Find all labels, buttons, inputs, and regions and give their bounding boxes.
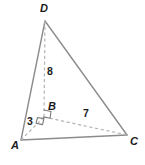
edge-B-C <box>44 117 127 135</box>
tetrahedron-svg <box>0 0 145 165</box>
measure-label-ab: 3 <box>27 116 33 127</box>
vertex-label-D: D <box>40 3 48 14</box>
vertex-label-A: A <box>11 140 19 151</box>
geometry-figure: D B A C 8 3 7 <box>0 0 145 165</box>
measure-label-bc: 7 <box>83 108 89 119</box>
right-angle-mark-at-B-lower <box>36 118 44 125</box>
edge-A-C <box>21 135 127 140</box>
vertex-label-B: B <box>48 101 56 112</box>
edge-A-D <box>21 21 45 140</box>
vertex-label-C: C <box>130 136 138 147</box>
measure-label-db: 8 <box>47 66 53 77</box>
edge-D-B <box>44 21 45 117</box>
